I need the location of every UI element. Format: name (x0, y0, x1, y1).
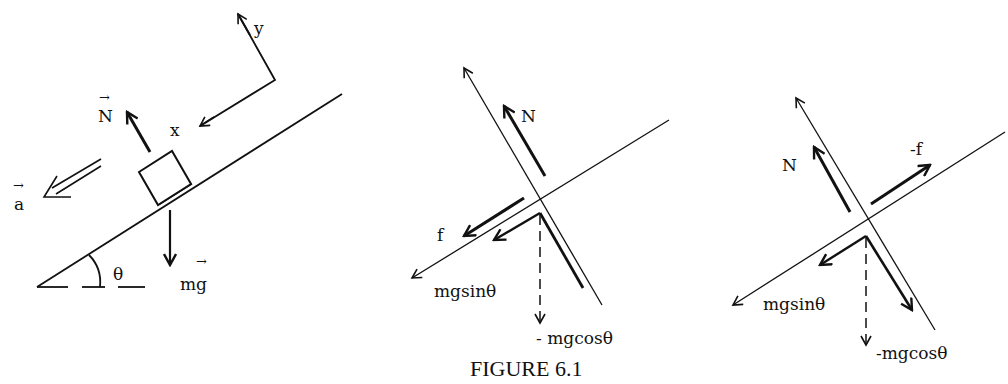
acceleration-label: a (14, 194, 24, 214)
acceleration-arrow (44, 159, 101, 197)
incline-line (37, 94, 342, 287)
figure-6-1: θ N → a → mg → y x N f (0, 0, 1008, 384)
panel-free-body-friction-down: N f mgsinθ - mgcosθ FIGURE 6.1 (412, 68, 669, 381)
axis-y-label: y (253, 18, 264, 38)
weight-vector-mark: → (196, 254, 207, 269)
friction-arrow (464, 198, 524, 236)
block (139, 151, 191, 205)
normal-force-label: N (521, 106, 536, 126)
angle-theta-label: θ (113, 264, 123, 284)
parallel-component-label: mgsinθ (763, 294, 825, 314)
perpendicular-component-arrow (540, 213, 583, 288)
axis-x-label: x (170, 120, 180, 140)
perpendicular-component-label: -mgcosθ (876, 343, 947, 363)
perpendicular-component-arrow (866, 236, 912, 310)
panel-free-body-friction-up: N -f mgsinθ -mgcosθ (733, 98, 1005, 363)
weight-label: mg (180, 274, 207, 294)
normal-vector-mark: → (99, 90, 110, 105)
parallel-component-arrow (820, 236, 866, 265)
normal-axis-line (464, 68, 602, 305)
parallel-component-label: mgsinθ (434, 281, 496, 301)
panel-incline: θ N → a → mg → y x (13, 14, 342, 294)
coordinate-axes (200, 14, 275, 126)
normal-force-label: N (782, 155, 797, 175)
friction-label: -f (910, 139, 924, 159)
figure-caption: FIGURE 6.1 (470, 356, 582, 381)
normal-force-label: N (98, 106, 113, 126)
normal-force-arrow (127, 112, 150, 152)
angle-arc (89, 255, 100, 287)
incline-axis-line (733, 132, 1005, 305)
friction-label: f (437, 225, 445, 245)
parallel-component-arrow (494, 213, 540, 240)
accel-vector-mark: → (13, 178, 24, 193)
perpendicular-component-label: - mgcosθ (536, 328, 613, 348)
